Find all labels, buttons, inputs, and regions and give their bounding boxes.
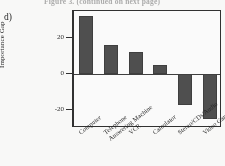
y-axis-title: Importance Gap (0, 21, 6, 68)
top-caption-text: Figure 3. (continued on next page) (44, 0, 194, 8)
y-tick-label: 20 (44, 33, 64, 41)
figure-panel: Figure 3. (continued on next page) d) Im… (0, 0, 225, 166)
y-tick-label: -20 (44, 105, 64, 113)
bar (129, 52, 143, 75)
bar (178, 74, 192, 105)
y-tick-label: 0 (44, 69, 64, 77)
bar (79, 16, 93, 74)
bar (153, 65, 167, 74)
bar-series (74, 11, 220, 126)
bar (203, 74, 217, 119)
bar (104, 45, 118, 74)
plot-area (73, 10, 221, 127)
